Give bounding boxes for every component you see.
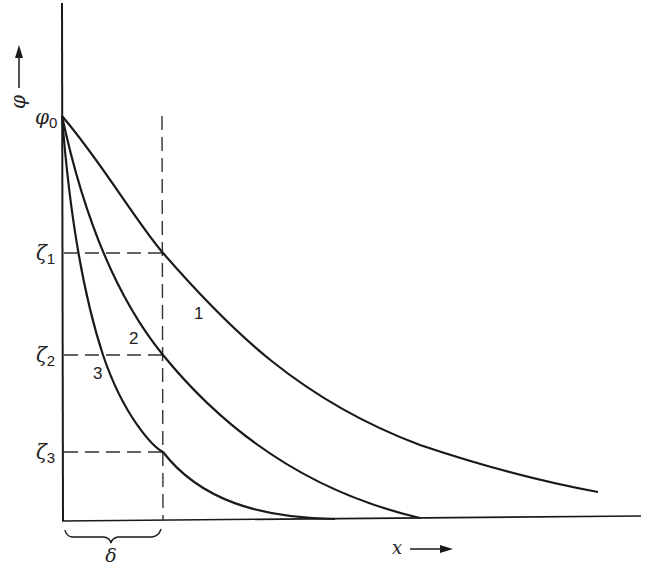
zeta1-label: ζ1 [36, 241, 55, 267]
diagram-canvas: φ φ0 ζ1 ζ2 ζ3 1 2 3 δ x [0, 0, 651, 575]
curve-2 [62, 116, 420, 518]
x-axis [62, 516, 641, 521]
delta-label: δ [105, 544, 116, 566]
curve-3-label: 3 [93, 364, 102, 383]
y-axis-label: φ [6, 95, 30, 109]
zeta3-label: ζ3 [36, 440, 55, 466]
phi0-label: φ0 [35, 105, 57, 131]
curve-1 [62, 116, 598, 492]
delta-dashed-line [162, 116, 163, 521]
y-axis-arrow-icon [15, 45, 23, 88]
x-axis-arrow-icon [410, 545, 453, 553]
zeta2-label: ζ2 [36, 343, 55, 369]
x-axis-label: x [392, 537, 402, 558]
delta-brace-icon [65, 529, 161, 543]
curve-1-label: 1 [194, 304, 203, 323]
curve-2-label: 2 [129, 329, 138, 348]
y-axis [62, 3, 63, 521]
